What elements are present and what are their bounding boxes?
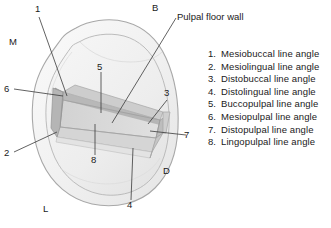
legend-label-2: Mesiolingual line angle [221,61,331,74]
legend-item-7: 7. Distopulpal line angle [202,124,331,137]
legend-item-5: 5. Buccopulpal line angle [202,98,331,111]
legend-item-8: 8. Lingopulpal line angle [202,136,331,149]
callout-number-2: 2 [4,147,9,158]
legend-label-4: Distolingual line angle [221,86,331,99]
legend-item-3: 3. Distobuccal line angle [202,73,331,86]
callout-number-7: 7 [184,129,189,140]
legend-label-5: Buccopulpal line angle [221,98,331,111]
figure-page: B M D L Pulpal floor wall 1 2 3 4 5 6 7 … [0,0,331,228]
legend-item-4: 4. Distolingual line angle [202,86,331,99]
callout-number-6: 6 [4,83,9,94]
legend-number-4: 4. [202,86,221,99]
legend-item-2: 2. Mesiolingual line angle [202,61,331,74]
orientation-label-mesial: M [9,36,17,47]
callout-number-5: 5 [97,61,102,72]
orientation-label-lingual: L [43,203,48,214]
callout-number-8: 8 [91,154,96,165]
legend-label-3: Distobuccal line angle [221,73,331,86]
orientation-label-buccal: B [152,2,158,13]
callout-number-1: 1 [35,3,40,14]
orientation-label-distal: D [163,165,170,176]
legend-label-6: Mesiopulpal line angle [221,111,331,124]
legend-label-7: Distopulpal line angle [221,124,331,137]
legend-label-1: Mesiobuccal line angle [221,48,331,61]
callout-number-4: 4 [127,199,132,210]
pulpal-floor-wall-annotation: Pulpal floor wall [177,11,244,22]
legend-number-2: 2. [202,61,221,74]
legend-number-5: 5. [202,98,221,111]
legend-item-6: 6. Mesiopulpal line angle [202,111,331,124]
legend-number-3: 3. [202,73,221,86]
legend-number-6: 6. [202,111,221,124]
legend-item-1: 1. Mesiobuccal line angle [202,48,331,61]
legend-number-1: 1. [202,48,221,61]
legend-list: 1. Mesiobuccal line angle 2. Mesiolingua… [202,48,331,149]
callout-number-3: 3 [164,87,169,98]
legend-number-8: 8. [202,136,221,149]
legend-number-7: 7. [202,124,221,137]
legend-label-8: Lingopulpal line angle [221,136,331,149]
